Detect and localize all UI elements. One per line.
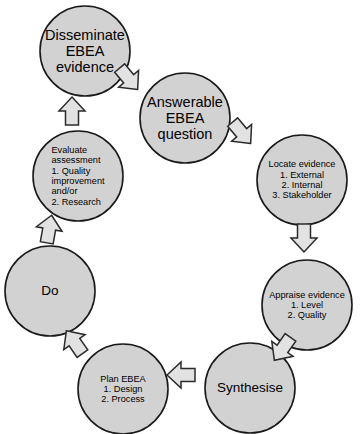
node-circle-answerable: [140, 73, 230, 163]
cycle-canvas: [0, 0, 364, 434]
node-circle-disseminate: [40, 6, 130, 96]
ebea-cycle-diagram: Disseminate EBEA evidenceAnswerable EBEA…: [0, 0, 364, 434]
node-circle-do: [5, 246, 95, 336]
arrow-evaluate-to-disseminate: [59, 97, 85, 125]
arrow-synthesise-to-plan: [167, 362, 195, 388]
node-circle-evaluate: [33, 131, 123, 221]
node-circle-plan: [78, 344, 168, 434]
node-circle-appraise: [262, 260, 352, 350]
arrow-locate-to-appraise: [291, 224, 317, 252]
node-circle-locate: [257, 135, 347, 225]
